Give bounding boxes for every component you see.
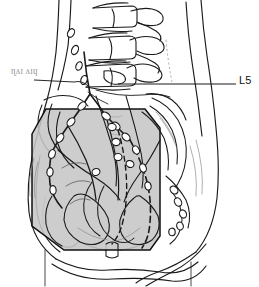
lymph-node-inguinal-4 — [169, 228, 176, 236]
vertebra-l3-pedicle — [112, 9, 114, 27]
lymph-node-paraaortic-3 — [75, 61, 84, 71]
detail-right-flank-hatch-1 — [196, 140, 202, 194]
lymph-node-inguinal-3 — [176, 221, 185, 231]
left-flank-contour-inner — [58, 0, 71, 90]
lymph-node-external-iliac-l2 — [46, 167, 53, 176]
left-mark-leader-line — [34, 80, 74, 82]
lymph-node-inguinal-2 — [178, 209, 188, 220]
label-l5: L5 — [239, 75, 252, 86]
lymph-node-paraaortic-4 — [80, 75, 89, 86]
lymph-node-inguinal-5 — [169, 184, 180, 195]
sacral-promontory — [96, 90, 170, 97]
vertebra-l5-endplate-lower — [86, 87, 130, 90]
treatment-field-shading — [32, 109, 160, 250]
lymph-node-inguinal-1 — [173, 196, 183, 207]
label-left-margin-mark: ɳʌɪ ʌɪɥ — [11, 66, 38, 76]
right-torso-contour — [196, 0, 218, 252]
lymph-node-paraaortic-1 — [66, 27, 76, 38]
detail-right-flank-hatch-2 — [190, 146, 196, 196]
anatomy-illustration — [0, 0, 259, 287]
lymph-node-presacral-3 — [114, 153, 123, 161]
vertebra-l4-pedicle — [109, 38, 112, 59]
detail-upper-dotted — [166, 40, 172, 82]
lymph-node-external-iliac-l3 — [49, 185, 56, 194]
vertebra-l3-body — [93, 6, 137, 28]
lymph-node-presacral-2 — [111, 138, 120, 146]
vertebra-l3-endplate-lower — [93, 28, 132, 32]
lumbar-vertebrae-group — [86, 3, 170, 104]
lower-body-outline — [56, 259, 198, 273]
lymph-node-paraaortic-2 — [70, 44, 80, 55]
right-torso-contour-inner — [186, 2, 202, 136]
pelvic-radiation-field-figure: L5 ɳʌɪ ʌɪɥ — [0, 0, 259, 287]
vertebra-l3-process-a — [131, 8, 163, 25]
vertebra-l4-process-b — [136, 54, 159, 73]
treatment-field-group — [32, 109, 160, 250]
vertebra-l5-process-a — [127, 64, 162, 82]
vertebra-l4-body — [89, 36, 136, 60]
vertebra-l5-transverse — [104, 71, 125, 84]
